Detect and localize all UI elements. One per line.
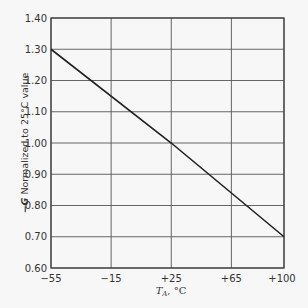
x-axis-ticks: −55−15+25+65+100 bbox=[40, 273, 295, 284]
x-tick-label: −15 bbox=[101, 273, 122, 284]
x-axis-label: TA, °C bbox=[156, 285, 187, 298]
x-tick-label: +25 bbox=[161, 273, 182, 284]
x-tick-label: +65 bbox=[221, 273, 242, 284]
x-tick-label: +100 bbox=[268, 273, 295, 284]
y-tick-label: 0.60 bbox=[25, 263, 47, 274]
y-tick-label: 0.70 bbox=[25, 231, 47, 242]
y-tick-label: 1.30 bbox=[25, 44, 47, 55]
y-tick-label: 1.40 bbox=[25, 13, 47, 24]
grid-lines bbox=[51, 18, 284, 268]
y-axis-label: −G Normalized to 25°C value bbox=[19, 73, 30, 214]
x-tick-label: −55 bbox=[40, 273, 61, 284]
chart: 0.600.700.800.901.001.101.201.301.40 −55… bbox=[0, 0, 308, 308]
